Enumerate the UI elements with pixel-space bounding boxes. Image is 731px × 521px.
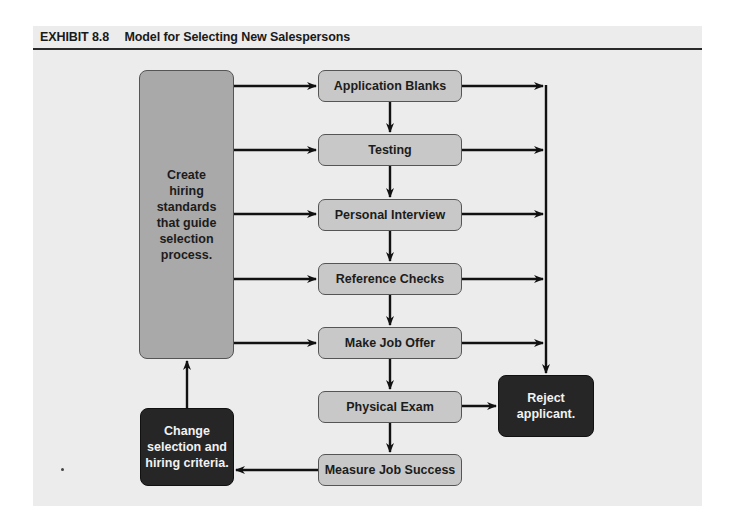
step-testing: Testing <box>318 134 462 166</box>
step-personal-interview: Personal Interview <box>318 199 462 231</box>
change-criteria-box: Change selection and hiring criteria. <box>140 408 234 486</box>
step-make-job-offer: Make Job Offer <box>318 327 462 359</box>
step-label: Reference Checks <box>336 271 444 287</box>
scan-speck <box>61 468 64 471</box>
reject-label: Reject applicant. <box>499 390 593 422</box>
step-label: Make Job Offer <box>345 335 435 351</box>
hiring-standards-label: Create hiring standards that guide selec… <box>140 167 233 263</box>
step-measure-job-success: Measure Job Success <box>318 454 462 486</box>
step-label: Physical Exam <box>346 399 434 415</box>
change-criteria-label: Change selection and hiring criteria. <box>141 423 233 471</box>
step-physical-exam: Physical Exam <box>318 391 462 423</box>
hiring-standards-box: Create hiring standards that guide selec… <box>139 70 234 359</box>
step-reference-checks: Reference Checks <box>318 263 462 295</box>
step-label: Measure Job Success <box>325 462 456 478</box>
reject-applicant-box: Reject applicant. <box>498 375 594 437</box>
step-label: Testing <box>368 142 412 158</box>
step-label: Personal Interview <box>335 207 445 223</box>
step-label: Application Blanks <box>334 78 447 94</box>
step-application-blanks: Application Blanks <box>318 70 462 102</box>
